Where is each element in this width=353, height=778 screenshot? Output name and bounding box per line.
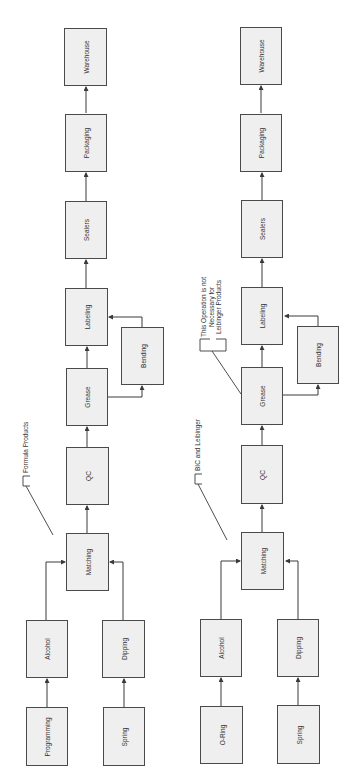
note-line: Leibinger Products [215, 277, 223, 337]
box-label: Dipping [120, 638, 127, 660]
bending-box: Bending [297, 326, 339, 384]
alcohol-box: Alcohol [200, 619, 242, 677]
box-label: Sealers [83, 219, 90, 241]
box-label: Alcohol [44, 638, 51, 659]
box-label: Alcohol [218, 637, 225, 658]
matching-box: Matching [66, 533, 109, 591]
box-label: Packaging [258, 128, 265, 158]
sealers-box: Sealers [65, 201, 107, 259]
qc-box: QC [66, 447, 109, 505]
sealers-box: Sealers [241, 200, 283, 258]
box-label: QC [259, 470, 266, 480]
packaging-box: Packaging [240, 114, 282, 172]
grease-box: Grease [241, 367, 283, 425]
matching-box: Matching [241, 532, 284, 590]
box-label: Programming [44, 717, 51, 756]
spring-box: Spring [103, 707, 145, 766]
box-label: QC [84, 471, 91, 481]
box-label: Dipping [295, 637, 302, 659]
box-label: Labeling [259, 304, 266, 329]
box-label: Spring [121, 727, 128, 746]
warehouse-box: Warehouse [64, 28, 107, 86]
formula-products-annotation: Formula Products [22, 422, 30, 473]
box-label: Spring [295, 725, 302, 744]
box-label: O-Ring [218, 725, 225, 746]
grease-box: Grease [66, 368, 108, 426]
alcohol-box: Alcohol [26, 620, 68, 678]
box-label: Warehouse [82, 41, 89, 74]
bic-leibinger-annotation: BIC and Leibinger [194, 419, 202, 471]
spring-box: Spring [277, 705, 320, 764]
oring-box: O-Ring [200, 706, 243, 764]
box-label: Matching [259, 548, 266, 574]
bending-box: Bending [121, 327, 164, 385]
dipping-box: Dipping [277, 619, 319, 677]
qc-box: QC [241, 445, 283, 504]
grease-operation-note: This Operation is not Necessary for Leib… [200, 277, 223, 337]
box-label: Grease [259, 385, 266, 406]
note-line: This Operation is not [200, 277, 208, 337]
packaging-box: Packaging [65, 114, 107, 172]
box-label: Sealers [259, 218, 266, 240]
warehouse-box: Warehouse [240, 27, 282, 85]
box-label: Warehouse [258, 40, 265, 73]
box-label: Grease [84, 386, 91, 407]
box-label: Labeling [83, 305, 90, 330]
programming-box: Programming [26, 707, 68, 766]
box-label: Packaging [83, 128, 90, 158]
process-flow-canvas: Warehouse Packaging Sealers Labeling Ben… [0, 0, 353, 778]
box-label: Matching [84, 549, 91, 575]
labeling-box: Labeling [241, 287, 283, 345]
box-label: Bending [315, 343, 322, 367]
box-label: Bending [139, 344, 146, 368]
note-line: Necessary for [208, 277, 216, 337]
labeling-box: Labeling [65, 288, 108, 346]
dipping-box: Dipping [102, 620, 145, 678]
